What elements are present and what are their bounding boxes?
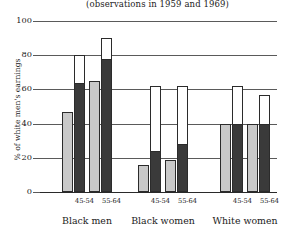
- bar-filled-segment: [101, 59, 112, 192]
- bar-filled-segment: [62, 112, 73, 192]
- y-tick-label-80: 80: [0, 49, 32, 59]
- y-tick-label-20: 20: [0, 152, 32, 162]
- y-tick-label-100: 100: [0, 15, 32, 25]
- bar-filled-segment: [150, 151, 161, 192]
- bar: [165, 160, 176, 192]
- plot-area: 100806040200: [40, 21, 277, 192]
- y-tick-mark-40: [33, 124, 40, 125]
- bar: [259, 95, 270, 192]
- chart-figure: (observations in 1959 and 1969) % of whi…: [0, 0, 281, 234]
- bar: [74, 55, 85, 192]
- bar-filled-segment: [138, 165, 149, 192]
- bar: [177, 86, 188, 192]
- bar: [62, 112, 73, 192]
- y-tick-mark-80: [33, 55, 40, 56]
- bar-filled-segment: [165, 160, 176, 192]
- bar: [101, 38, 112, 192]
- age-bracket-label: 55-64: [93, 197, 130, 205]
- age-bracket-label: 55-64: [251, 197, 281, 205]
- y-tick-mark-20: [33, 158, 40, 159]
- bar-filled-segment: [177, 144, 188, 192]
- age-bracket-label: 55-64: [169, 197, 206, 205]
- y-tick-label-0: 0: [0, 186, 32, 196]
- bar: [150, 86, 161, 192]
- group-label: White women: [198, 215, 281, 226]
- y-tick-mark-0: [33, 192, 40, 193]
- bar: [220, 124, 231, 192]
- y-tick-mark-60: [33, 89, 40, 90]
- bar-filled-segment: [259, 124, 270, 192]
- bar-filled-segment: [89, 81, 100, 192]
- bar-filled-segment: [232, 124, 243, 192]
- y-tick-label-60: 60: [0, 83, 32, 93]
- gridline-0: [40, 192, 277, 193]
- y-tick-mark-100: [33, 21, 40, 22]
- bar-filled-segment: [220, 124, 231, 192]
- bar: [89, 81, 100, 192]
- gridline-100: [40, 21, 277, 22]
- group-label: Black women: [116, 215, 210, 226]
- chart-subtitle: (observations in 1959 and 1969): [40, 0, 275, 9]
- bar: [247, 124, 258, 192]
- bar-filled-segment: [247, 124, 258, 192]
- bar: [138, 165, 149, 192]
- y-tick-label-40: 40: [0, 118, 32, 128]
- bar-filled-segment: [74, 83, 85, 192]
- bar: [232, 86, 243, 192]
